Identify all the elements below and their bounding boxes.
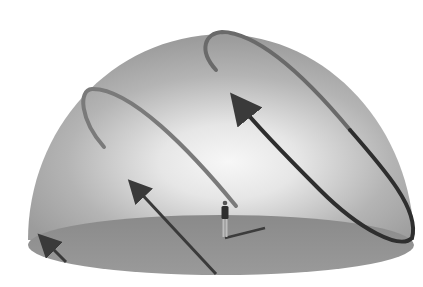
- sky-dome-diagram: [0, 0, 423, 287]
- ground-plane: [28, 215, 414, 275]
- dome-illustration: [0, 0, 423, 287]
